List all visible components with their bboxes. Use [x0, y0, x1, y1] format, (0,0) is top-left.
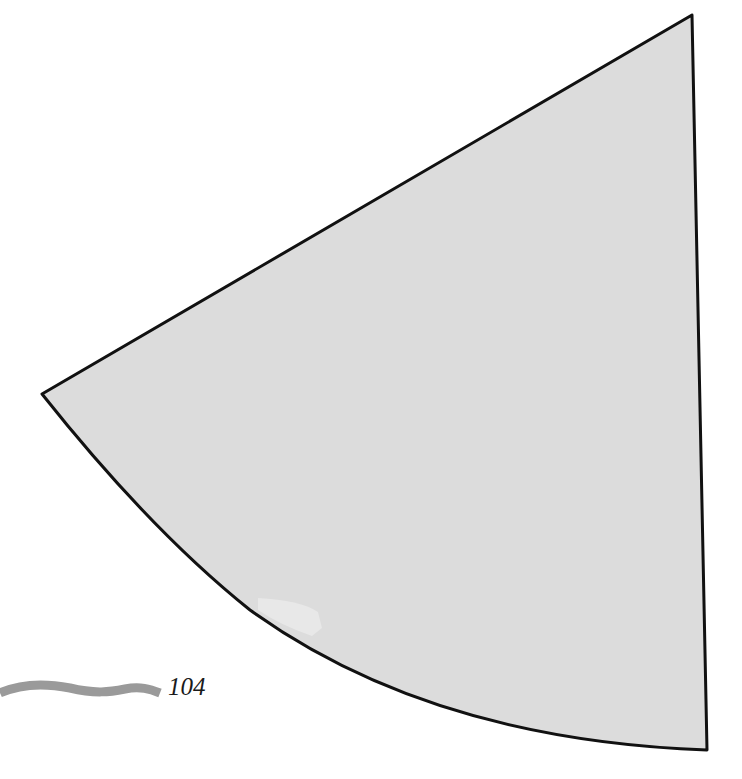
circle-sector-shape [42, 15, 707, 750]
squiggle-decoration [0, 685, 160, 693]
page-number: 104 [168, 674, 206, 699]
sector-figure [0, 0, 742, 779]
